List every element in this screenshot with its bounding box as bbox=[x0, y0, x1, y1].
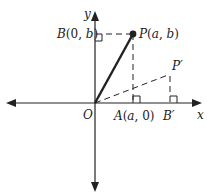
point-B-prime-label: B′ bbox=[162, 109, 175, 123]
y-axis-down-arrow-icon bbox=[91, 182, 99, 192]
segment-OP bbox=[95, 34, 133, 103]
x-axis bbox=[6, 99, 202, 107]
x-axis-left-arrow-icon bbox=[6, 99, 16, 107]
x-axis-right-arrow-icon bbox=[192, 99, 202, 107]
dashed-line-O-to-P-prime bbox=[95, 75, 168, 103]
coordinate-diagram: y x O B(0, b) P(a, b) A(a, 0) P′ B′ bbox=[0, 0, 207, 195]
point-P-label: P(a, b) bbox=[138, 27, 179, 41]
point-P-prime-label: P′ bbox=[171, 59, 183, 73]
y-axis-up-arrow-icon bbox=[91, 11, 99, 21]
right-angle-marker-A bbox=[133, 96, 140, 103]
point-P-dot bbox=[130, 31, 137, 38]
point-A-label: A(a, 0) bbox=[113, 109, 154, 123]
y-axis-label: y bbox=[83, 7, 91, 21]
x-axis-label: x bbox=[197, 108, 204, 122]
point-B-label: B(0, b) bbox=[56, 27, 98, 41]
origin-label: O bbox=[83, 108, 93, 122]
right-angle-marker-B-prime bbox=[170, 96, 177, 103]
